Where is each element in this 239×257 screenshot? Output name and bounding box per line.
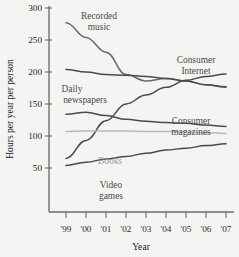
y-tick-label: 200 [28,67,42,77]
x-tick-label: '04 [161,224,172,234]
x-tick-label: '99 [61,224,72,234]
label-consumer-internet-line2: Internet [181,66,211,76]
y-tick-label: 100 [28,131,42,141]
label-consumer-magazines-line1: Consumer [172,116,211,126]
x-tick-label: '05 [181,224,192,234]
x-tick-label: '06 [201,224,212,234]
label-recorded-music-line1: Recorded [81,11,117,21]
y-tick-label: 50 [33,163,43,173]
x-tick-label: '07 [221,224,232,234]
label-video-games-line2: games [99,191,123,201]
y-tick-label: 150 [28,99,42,109]
x-axis-title: Year [132,241,150,252]
chart-canvas: 50100150200250300 '99'00'01'02'03'04'05'… [0,0,239,257]
y-tick-label: 300 [28,3,42,13]
x-tick-label: '00 [81,224,92,234]
x-tick-label: '01 [101,224,112,234]
y-tick-label: 250 [28,35,42,45]
line-chart: 50100150200250300 '99'00'01'02'03'04'05'… [0,0,239,257]
label-recorded-music-line2: music [88,22,110,32]
label-daily-newspapers-line1: Daily [62,84,83,94]
x-tick-label: '03 [141,224,152,234]
label-consumer-internet-line1: Consumer [177,55,216,65]
label-video-games-line1: Video [100,180,123,190]
label-books: Books [98,156,122,166]
label-daily-newspapers-line2: newspapers [63,95,107,105]
x-tick-label: '02 [121,224,132,234]
y-axis-title: Hours per year per person [4,59,15,159]
label-consumer-magazines-line2: magazines [171,127,211,137]
